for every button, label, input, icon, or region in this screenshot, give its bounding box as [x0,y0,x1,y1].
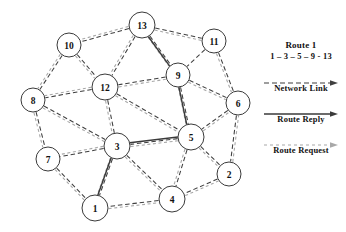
route-reply-segment [148,36,169,66]
node-label: 8 [31,96,36,106]
route-request-link [116,96,179,132]
network-link [219,53,234,92]
network-node-10[interactable]: 10 [57,33,81,57]
route-request-link [203,112,229,131]
legend-route-sequence: 1 – 3 – 5 – 9 - 13 [258,51,344,62]
legend-entry-network-link: Network Link [258,73,344,93]
route-request-link [185,181,218,196]
route-request-link [188,82,225,99]
network-link [100,159,113,196]
route-request-link [45,87,91,95]
route-request-link [80,26,128,39]
route-request-link [38,54,60,88]
route-reply-swatch-icon [262,104,340,113]
network-node-3[interactable]: 3 [104,133,130,159]
route-request-link [110,35,133,74]
network-link-swatch-icon [262,73,340,82]
legend-panel: Route 1 1 – 3 – 5 – 9 - 13 Network Link … [258,40,344,155]
node-label: 12 [100,83,110,93]
node-label: 5 [189,133,194,143]
route-request-link [60,146,103,154]
network-link [112,37,135,76]
legend-entry-route-reply: Route Reply [258,104,344,124]
network-node-8[interactable]: 8 [21,88,45,112]
route-request-swatch-icon [262,135,340,144]
node-label: 11 [210,37,219,47]
node-label: 4 [170,195,175,205]
network-node-6[interactable]: 6 [226,91,250,115]
network-link [201,146,220,165]
network-node-7[interactable]: 7 [36,147,60,171]
route-reply-segment [98,158,111,195]
network-node-5[interactable]: 5 [178,124,204,150]
network-node-1[interactable]: 1 [82,195,108,221]
network-link [57,168,86,198]
legend-title: Route 1 [258,40,344,51]
route-request-link [55,170,84,200]
legend-entry-route-request: Route Request [258,135,344,155]
network-node-9[interactable]: 9 [166,63,190,87]
network-link [187,50,205,67]
node-label: 2 [227,170,232,180]
network-link [60,148,103,156]
route-request-link [43,108,104,142]
route-request-link [199,148,218,167]
node-label: 7 [46,155,51,165]
network-link [81,29,129,42]
route-request-link [155,30,202,40]
route-request-link [174,149,185,185]
node-label: 1 [93,204,98,214]
route-reply-segment [179,87,187,125]
network-node-12[interactable]: 12 [92,74,118,100]
network-link [117,94,180,130]
node-label: 3 [115,142,120,152]
network-link [150,36,171,65]
node-label: 13 [137,21,147,31]
network-link [202,110,228,129]
network-link [127,155,163,189]
nodes-layer: 13111091286537241 [21,12,250,221]
network-link [77,54,96,76]
route-request-link [216,53,231,92]
network-link [155,28,202,38]
network-link [189,80,226,97]
route-request-link [75,56,94,78]
route-request-link [125,157,161,191]
network-link [176,150,187,186]
network-link [108,100,115,133]
network-node-2[interactable]: 2 [217,162,241,186]
network-node-13[interactable]: 13 [129,12,155,38]
network-node-11[interactable]: 11 [202,29,226,53]
network-link [44,106,105,140]
node-label: 9 [176,71,181,81]
node-label: 6 [236,99,241,109]
network-link [36,112,45,147]
node-label: 10 [64,41,74,51]
network-node-4[interactable]: 4 [159,186,185,212]
network-link [45,89,91,97]
route-request-link [34,113,43,148]
network-link [184,179,217,194]
network-link [40,55,62,89]
